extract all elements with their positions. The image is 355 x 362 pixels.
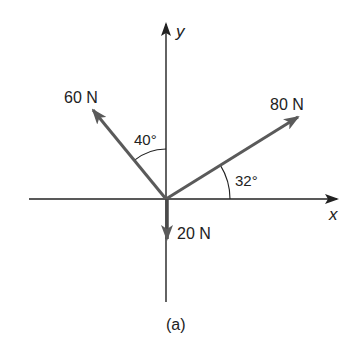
arc-40-icon [134,149,166,161]
angle-label-32: 32° [235,172,258,189]
force-arrow-80N [166,117,298,199]
force-label-60N: 60 N [64,89,98,106]
y-axis: y [166,22,186,302]
angle-arc-32: 32° [220,165,257,199]
x-axis-label: x [328,205,338,224]
force-label-80N: 80 N [270,96,304,113]
force-20N: 20 N [167,199,211,242]
figure-caption: (a) [166,316,186,333]
arc-32-icon [220,165,230,199]
force-arrow-60N [93,110,166,199]
x-axis: x [29,199,338,224]
angle-arc-40: 40° [134,131,166,161]
force-diagram: x y 40° 32° 60 N 80 N 20 N (a) [0,0,355,362]
angle-label-40: 40° [134,131,157,148]
y-axis-label: y [175,22,186,41]
force-label-20N: 20 N [177,225,211,242]
